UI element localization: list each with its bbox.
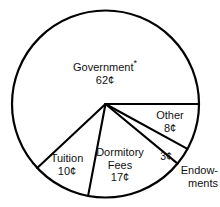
slice-label-endowments-line1: Endow- xyxy=(160,164,218,177)
slice-label-endowments-line2: ments xyxy=(160,177,218,190)
slice-value-tuition: 10¢ xyxy=(40,165,94,178)
slice-label-tuition-name: Tuition xyxy=(51,152,84,164)
slice-label-dormitory-line2: Fees xyxy=(88,159,152,172)
slice-label-dormitory-line1: Dormitory xyxy=(88,146,152,159)
slice-value-other: 8¢ xyxy=(144,122,196,135)
slice-label-government-name: Government xyxy=(73,61,134,73)
government-footnote-marker: * xyxy=(134,58,138,68)
slice-value-dormitory: 17¢ xyxy=(88,171,152,184)
slice-value-government: 62¢ xyxy=(62,74,148,87)
slice-value-endowments: 3¢ xyxy=(155,150,177,163)
slice-label-other: Other 8¢ xyxy=(144,109,196,134)
slice-label-other-name: Other xyxy=(156,109,184,121)
slice-label-endowments: Endow- ments xyxy=(160,164,218,189)
slice-label-tuition: Tuition 10¢ xyxy=(40,152,94,177)
slice-label-dormitory-fees: Dormitory Fees 17¢ xyxy=(88,146,152,184)
slice-label-government: Government* 62¢ xyxy=(62,61,148,86)
pie-chart-figure: Government* 62¢ Other 8¢ 3¢ Endow- ments… xyxy=(0,0,220,207)
